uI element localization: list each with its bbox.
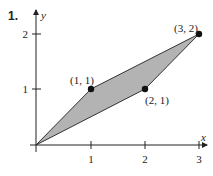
- x-axis-label: x: [200, 131, 206, 143]
- x-tick-label: 2: [142, 153, 148, 165]
- point-label: (1, 1): [70, 74, 94, 87]
- y-axis-label: y: [40, 9, 46, 21]
- x-tick-label: 3: [196, 153, 202, 165]
- point-2-1: [142, 86, 148, 92]
- problem-number: 1.: [8, 9, 18, 23]
- x-tick-label: 1: [88, 153, 94, 165]
- y-tick-label: 1: [23, 83, 29, 95]
- point-1-1: [88, 86, 94, 92]
- shaded-parallelogram: [36, 34, 199, 145]
- parallelogram-plot: 1 2 3 1 2 x y 1. (1, 1) (2, 1) (3, 2): [0, 0, 213, 176]
- y-tick-label: 2: [23, 28, 29, 40]
- point-label: (3, 2): [174, 22, 198, 35]
- point-label: (2, 1): [145, 94, 169, 107]
